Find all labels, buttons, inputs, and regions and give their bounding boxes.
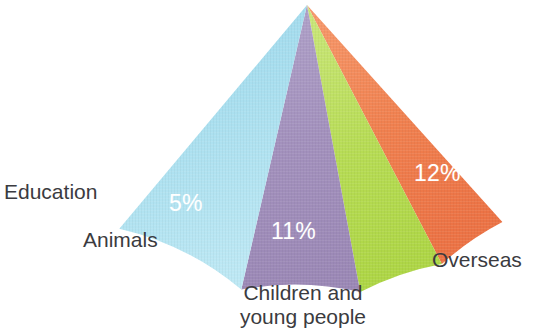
slice-label-overseas: Overseas <box>432 248 522 272</box>
slice-label-education: Education <box>4 180 97 204</box>
slice-value-education: 4% <box>127 145 161 168</box>
slice-label-children-line1: Children and <box>243 281 362 304</box>
slice-value-animals: 5% <box>169 192 203 215</box>
slice-value-children-and-young-people: 11% <box>271 220 316 243</box>
fan-chart: 4% 5% 11% 12% Education Animals Children… <box>0 0 537 334</box>
slice-label-animals: Animals <box>83 228 158 252</box>
slice-label-children-line2: young people <box>240 305 366 328</box>
slice-value-overseas: 12% <box>414 162 461 185</box>
slice-label-children-and-young-people: Children and young people <box>228 281 378 330</box>
